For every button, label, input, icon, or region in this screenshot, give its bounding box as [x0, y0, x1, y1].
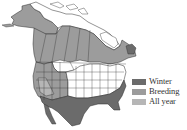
legend-item-all-year: All year [132, 97, 187, 107]
legend-item-winter: Winter [132, 77, 187, 87]
legend-item-breeding: Breeding [132, 87, 187, 97]
map-legend: Winter Breeding All year [132, 77, 187, 107]
range-map [0, 0, 187, 130]
region-aleutians [2, 24, 14, 27]
legend-label: All year [149, 97, 176, 106]
legend-label: Winter [149, 77, 172, 86]
all-year-swatch [132, 99, 146, 105]
region-newfoundland [126, 44, 136, 54]
winter-swatch [132, 79, 146, 85]
legend-label: Breeding [149, 87, 179, 96]
breeding-swatch [132, 89, 146, 95]
